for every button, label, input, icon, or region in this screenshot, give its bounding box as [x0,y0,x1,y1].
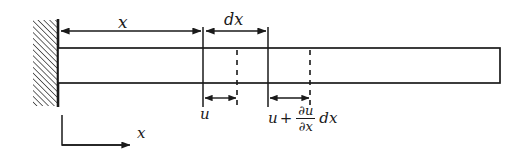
wall-hatch-fill [33,20,58,106]
axis-indicator [62,115,130,145]
u-plus-partial-derivative-label: u + ∂u ∂x dx [268,104,337,133]
expression-trailing-dx: dx [319,111,337,126]
diagram-svg [0,0,527,163]
figure-canvas: x dx u x u + ∂u ∂x dx [0,0,527,163]
beam-body [58,48,500,83]
fraction-numerator: ∂u [296,104,315,118]
partial-derivative-fraction: ∂u ∂x [296,104,315,133]
axis-x-label: x [137,126,145,141]
axis-corner-line [62,115,128,145]
wall-support [33,19,58,107]
expression-term-u: u [268,111,278,126]
fraction-denominator: ∂x [297,119,315,133]
dx-dimension-label: dx [224,12,243,28]
u-displacement-label: u [200,107,210,122]
expression-plus-operator: + [280,111,293,126]
x-dimension-label: x [118,14,128,31]
beam-outline [58,48,500,83]
